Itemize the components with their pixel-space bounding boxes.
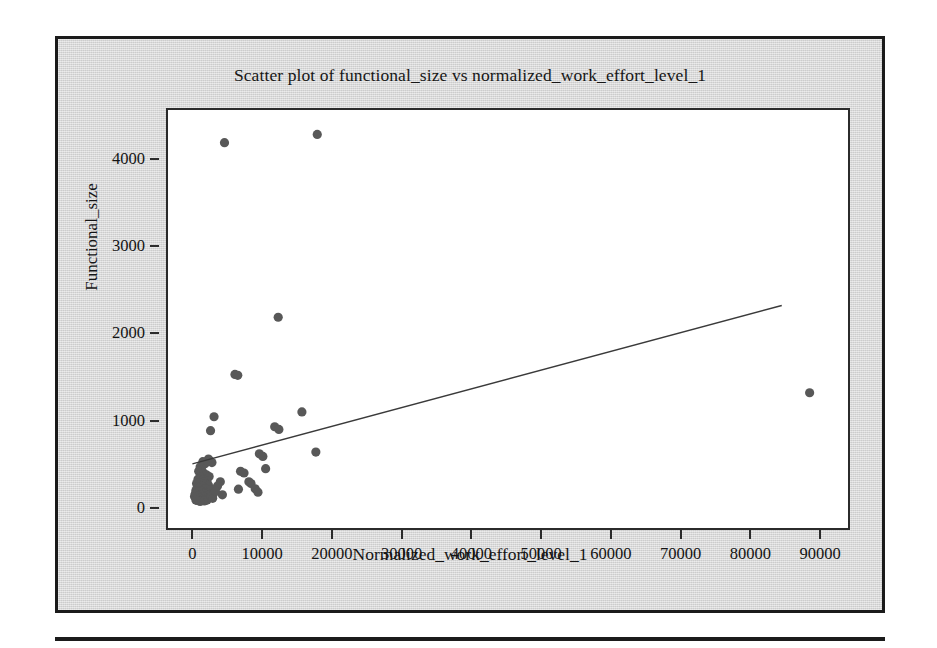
scatter-point	[234, 485, 243, 494]
scatter-point	[297, 407, 306, 416]
x-tick-mark	[680, 530, 682, 539]
y-tick-label: 4000	[112, 149, 145, 169]
scatter-plot-svg	[168, 110, 848, 528]
y-tick-mark	[150, 158, 159, 160]
x-tick-mark	[470, 530, 472, 539]
scatter-point	[206, 426, 215, 435]
x-tick-mark	[331, 530, 333, 539]
y-tick-mark	[150, 507, 159, 509]
y-tick-label: 2000	[112, 323, 145, 343]
scatter-point	[805, 388, 814, 397]
scatter-point	[239, 468, 248, 477]
x-tick-mark	[610, 530, 612, 539]
scatter-point	[313, 130, 322, 139]
scatter-point	[220, 138, 229, 147]
scatter-point	[209, 412, 218, 421]
y-tick-mark	[150, 332, 159, 334]
x-tick-mark	[191, 530, 193, 539]
y-tick-mark	[150, 420, 159, 422]
x-tick-mark	[540, 530, 542, 539]
x-tick-mark	[401, 530, 403, 539]
chart-title: Scatter plot of functional_size vs norma…	[58, 65, 882, 86]
page-divider-rule	[55, 637, 885, 641]
scatter-point	[261, 464, 270, 473]
y-tick-label: 1000	[112, 411, 145, 431]
scatter-point	[274, 425, 283, 434]
y-tick-label: 3000	[112, 236, 145, 256]
screenshot-page: Scatter plot of functional_size vs norma…	[0, 0, 937, 648]
y-tick-label: 0	[137, 498, 145, 518]
scatter-point	[253, 488, 262, 497]
plot-area	[166, 108, 850, 530]
x-axis-title: Normalized_work_effort_level_1	[58, 544, 882, 565]
scatter-point	[258, 452, 267, 461]
x-tick-mark	[749, 530, 751, 539]
scatter-point	[191, 495, 200, 504]
y-axis-ticks: 01000200030004000	[58, 108, 159, 530]
x-tick-mark	[819, 530, 821, 539]
regression-trendline	[192, 305, 781, 463]
scatter-point	[311, 447, 320, 456]
x-tick-mark	[261, 530, 263, 539]
figure-container: Scatter plot of functional_size vs norma…	[55, 36, 885, 613]
scatter-point	[274, 313, 283, 322]
data-points-group	[190, 130, 814, 506]
scatter-point	[233, 371, 242, 380]
y-tick-mark	[150, 245, 159, 247]
scatter-point	[218, 490, 227, 499]
